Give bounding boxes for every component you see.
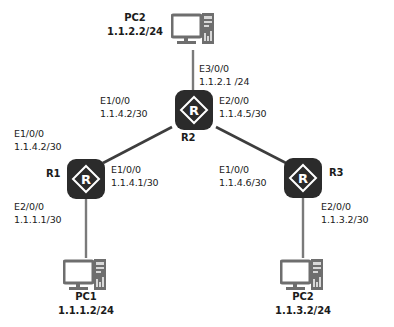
iface-r3-e2-label: E2/0/0 1.1.3.2/30 — [321, 201, 369, 226]
iface-r1-upper-port: E1/0/0 — [14, 128, 44, 139]
iface-r1-upper-label: E1/0/0 1.1.4.2/30 — [14, 128, 62, 153]
iface-r2-e3-label: E3/0/0 1.1.2.1 /24 — [199, 63, 249, 88]
router-r1[interactable]: R — [67, 159, 105, 199]
iface-r3-e1-label: E1/0/0 1.1.4.6/30 — [219, 164, 267, 189]
iface-r2-e1-port: E1/0/0 — [100, 95, 130, 106]
svg-text:R: R — [81, 172, 91, 187]
svg-text:R: R — [189, 103, 199, 118]
router-r1-name: R1 — [46, 168, 60, 181]
iface-r1-upper-address: 1.1.4.2/30 — [14, 141, 62, 154]
iface-r1-e2-address: 1.1.1.1/30 — [14, 214, 62, 227]
router-icon: R — [284, 158, 322, 198]
pc-top-name: PC2 — [124, 12, 145, 23]
iface-r2-e2-port: E2/0/0 — [219, 95, 249, 106]
link-r1-r2 — [103, 127, 172, 163]
pc-top-ip: 1.1.2.2/24 — [104, 25, 166, 39]
pc-bottom-right-ip: 1.1.3.2/24 — [265, 304, 341, 318]
iface-r2-e3-port: E3/0/0 — [199, 63, 229, 74]
iface-r1-e2-port: E2/0/0 — [14, 201, 44, 212]
iface-r2-e2-address: 1.1.4.5/30 — [219, 108, 267, 121]
svg-text:R: R — [298, 171, 308, 186]
pc-bottom-right-name: PC2 — [292, 291, 313, 302]
pc-top-label: PC2 1.1.2.2/24 — [104, 11, 166, 38]
iface-r3-e1-address: 1.1.4.6/30 — [219, 177, 267, 190]
iface-r2-e1-label: E1/0/0 1.1.4.2/30 — [100, 95, 148, 120]
pc-bottom-right-label: PC2 1.1.3.2/24 — [265, 290, 341, 317]
pc-icon — [171, 11, 217, 51]
iface-r2-e2-label: E2/0/0 1.1.4.5/30 — [219, 95, 267, 120]
router-r2-name: R2 — [181, 132, 195, 145]
pc-top-icon — [171, 11, 217, 51]
iface-r3-e2-port: E2/0/0 — [321, 201, 351, 212]
iface-r1-e1-port: E1/0/0 — [111, 164, 141, 175]
iface-r1-e2-label: E2/0/0 1.1.1.1/30 — [14, 201, 62, 226]
iface-r1-e1-label: E1/0/0 1.1.4.1/30 — [111, 164, 159, 189]
router-r3[interactable]: R — [284, 158, 322, 198]
pc-bottom-left-label: PC1 1.1.1.2/24 — [48, 290, 124, 317]
router-r2[interactable]: R — [175, 90, 213, 130]
network-diagram: PC2 1.1.2.2/24 E3/0/0 1.1.2.1 /24 E1/0/0… — [0, 0, 394, 327]
link-r2-r3 — [216, 127, 286, 163]
iface-r3-e2-address: 1.1.3.2/30 — [321, 214, 369, 227]
router-icon: R — [67, 159, 105, 199]
iface-r2-e3-address: 1.1.2.1 /24 — [199, 76, 249, 89]
iface-r2-e1-address: 1.1.4.2/30 — [100, 108, 148, 121]
pc-bottom-left-ip: 1.1.1.2/24 — [48, 304, 124, 318]
router-icon: R — [175, 90, 213, 130]
iface-r1-e1-address: 1.1.4.1/30 — [111, 177, 159, 190]
router-r3-name: R3 — [329, 167, 343, 180]
iface-r3-e1-port: E1/0/0 — [219, 164, 249, 175]
pc-bottom-left-name: PC1 — [75, 291, 96, 302]
